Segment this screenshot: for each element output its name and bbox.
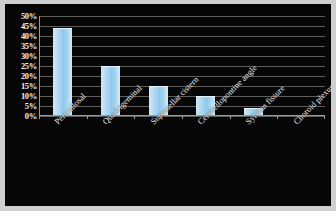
y-axis-tick-label: 25%: [21, 62, 37, 71]
y-axis-tick-label: 50%: [21, 12, 37, 21]
y-axis-tick-label: 0%: [25, 112, 37, 121]
y-axis-tick-label: 35%: [21, 42, 37, 51]
y-axis-tick-labels: 50%45%40%35%30%25%20%15%10%5%0%: [9, 16, 37, 116]
y-axis-tick-label: 30%: [21, 52, 37, 61]
y-axis-tick-label: 45%: [21, 22, 37, 31]
chart-canvas: 50%45%40%35%30%25%20%15%10%5%0% Pericall…: [5, 4, 331, 206]
y-axis-tick-label: 15%: [21, 82, 37, 91]
y-axis-tick-label: 40%: [21, 32, 37, 41]
y-axis-tick-label: 5%: [25, 102, 37, 111]
y-axis-tick-label: 10%: [21, 92, 37, 101]
chart-frame: 50%45%40%35%30%25%20%15%10%5%0% Pericall…: [0, 0, 336, 211]
y-axis-tick-label: 20%: [21, 72, 37, 81]
x-axis-category-labels: PericallosalQuadrigeminalSuprasellar cis…: [39, 116, 325, 201]
